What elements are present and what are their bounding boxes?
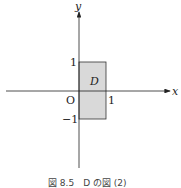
origin-label: O xyxy=(66,94,75,107)
figure-caption: 図 8.5 D の図 (2) xyxy=(48,178,127,188)
y-axis-label: y xyxy=(74,0,82,13)
coordinate-diagram: x y O 1 1 −1 D 図 8.5 D の図 (2) xyxy=(0,0,181,188)
tick-y-1: 1 xyxy=(70,56,77,69)
tick-x-1: 1 xyxy=(108,94,115,107)
region-d xyxy=(79,62,106,119)
region-label: D xyxy=(89,75,99,88)
x-axis-label: x xyxy=(172,85,179,98)
tick-y-minus-1: −1 xyxy=(62,113,78,126)
